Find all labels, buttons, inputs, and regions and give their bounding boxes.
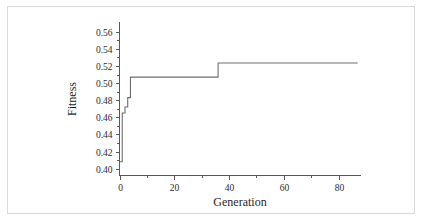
y-tick-label: 0.44 — [96, 130, 113, 140]
x-axis-ticks — [121, 176, 340, 180]
x-tick-label: 80 — [335, 183, 345, 193]
x-axis: 020406080 Generation — [118, 176, 360, 210]
x-axis-tick-labels: 020406080 — [118, 183, 344, 193]
y-axis-ticks — [116, 33, 120, 170]
x-tick-label: 0 — [118, 183, 123, 193]
y-tick-label: 0.56 — [96, 28, 113, 38]
y-axis: 0.400.420.440.460.480.500.520.540.56 Fit… — [65, 22, 120, 176]
y-axis-title: Fitness — [65, 82, 79, 116]
fitness-vs-generation-chart: 0.400.420.440.460.480.500.520.540.56 Fit… — [8, 7, 416, 215]
y-tick-label: 0.46 — [96, 113, 113, 123]
x-tick-label: 40 — [225, 183, 235, 193]
plot-area: 0.400.420.440.460.480.500.520.540.56 Fit… — [8, 7, 416, 215]
x-axis-title: Generation — [213, 195, 266, 209]
x-tick-label: 20 — [170, 183, 180, 193]
y-tick-label: 0.48 — [96, 96, 113, 106]
y-tick-label: 0.52 — [96, 62, 113, 72]
y-axis-tick-labels: 0.400.420.440.460.480.500.520.540.56 — [96, 28, 113, 175]
fitness-step-line — [120, 63, 358, 162]
y-tick-label: 0.50 — [96, 79, 113, 89]
y-tick-label: 0.40 — [96, 165, 113, 175]
y-tick-label: 0.54 — [96, 45, 113, 55]
figure-frame: 0.400.420.440.460.480.500.520.540.56 Fit… — [7, 6, 415, 214]
x-tick-label: 60 — [280, 183, 290, 193]
y-tick-label: 0.42 — [96, 148, 113, 158]
